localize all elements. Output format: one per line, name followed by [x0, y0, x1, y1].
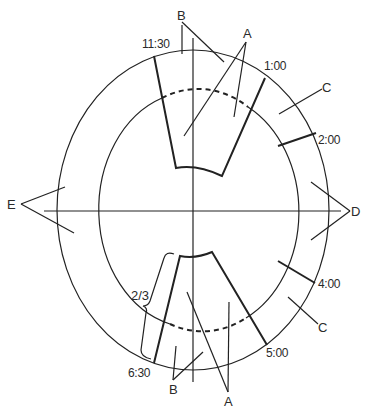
time-label-6-30: 6:30	[128, 366, 151, 380]
two-thirds-brace	[141, 253, 174, 359]
divider-2-00	[278, 133, 316, 146]
label-d: D	[351, 204, 360, 219]
leader-b-bottom-1	[173, 346, 176, 380]
label-a-bottom: A	[224, 394, 233, 409]
bottom-cutout	[154, 252, 267, 363]
time-label-4-00: 4:00	[318, 277, 341, 291]
time-label-11-30: 11:30	[142, 37, 170, 51]
leader-e-2	[21, 204, 74, 233]
inner-ellipse-bottom-dashed	[170, 318, 246, 331]
time-label-2-00: 2:00	[318, 133, 341, 147]
diagram-canvas: B A C D E C B A 2/3 11:30 1:00 2:00 4:00…	[0, 0, 384, 414]
label-c-top: C	[322, 80, 331, 95]
leader-b-bottom-2	[173, 352, 203, 380]
leader-d-1	[311, 182, 350, 211]
label-b-bottom: B	[169, 382, 178, 397]
leader-e-1	[21, 187, 65, 204]
leader-a-top-2	[234, 42, 246, 117]
label-e: E	[7, 197, 16, 212]
inner-ellipse-right-arc	[246, 107, 299, 318]
time-label-1-00: 1:00	[264, 59, 287, 73]
leader-d-2	[311, 211, 350, 240]
label-two-thirds: 2/3	[131, 288, 149, 303]
leader-b-top-2	[182, 22, 224, 62]
top-cutout	[154, 56, 265, 176]
label-a-top: A	[243, 26, 252, 41]
divider-4-00	[278, 261, 315, 283]
label-b-top: B	[177, 8, 186, 23]
leader-a-bottom-2	[228, 302, 229, 392]
label-c-bottom: C	[318, 320, 327, 335]
time-label-5-00: 5:00	[266, 346, 289, 360]
